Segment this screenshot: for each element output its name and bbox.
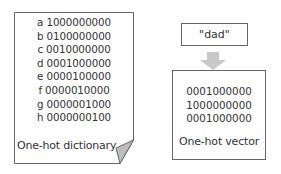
dictionary-entries: a 1000000000 b 0100000000 c 0010000000 d… [14, 16, 134, 125]
dictionary-entry: a 1000000000 [14, 16, 134, 30]
one-hot-dictionary-page: a 1000000000 b 0100000000 c 0010000000 d… [14, 12, 134, 164]
dictionary-entry: f 0000010000 [14, 84, 134, 98]
vector-row: 0001000000 [173, 85, 265, 99]
vector-label: One-hot vector [173, 135, 265, 148]
dictionary-entry: b 0100000000 [14, 30, 134, 44]
dictionary-entry: h 0000000100 [14, 111, 134, 125]
one-hot-vector-box: 0001000000 1000000000 0001000000 One-hot… [172, 70, 266, 160]
dictionary-label: One-hot dictionary [17, 139, 116, 152]
dictionary-entry: g 0000001000 [14, 98, 134, 112]
vector-row: 1000000000 [173, 99, 265, 113]
down-arrow-icon [200, 52, 226, 70]
dictionary-entry: d 0001000000 [14, 57, 134, 71]
dictionary-entry: e 0000100000 [14, 70, 134, 84]
input-word-box: "dad" [181, 23, 248, 46]
dictionary-entry: c 0010000000 [14, 43, 134, 57]
vector-row: 0001000000 [173, 112, 265, 126]
vector-rows: 0001000000 1000000000 0001000000 [173, 85, 265, 126]
